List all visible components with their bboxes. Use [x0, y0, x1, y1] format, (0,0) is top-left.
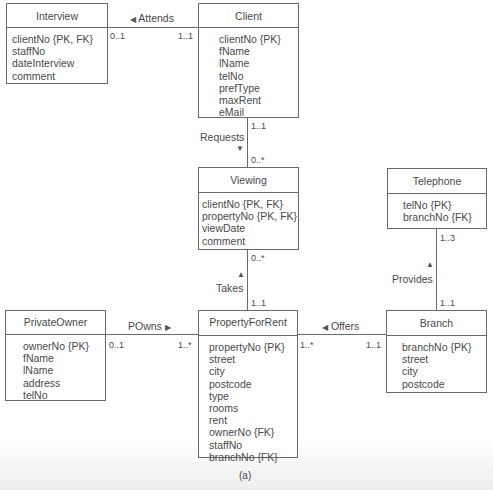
- relationship-label: Takes: [216, 282, 243, 294]
- attribute: clientNo {PK, FK}: [12, 33, 107, 45]
- entity-telephone[interactable]: Telephone telNo {PK} branchNo {FK}: [387, 168, 487, 229]
- takes-connector: [247, 249, 248, 310]
- attribute: branchNo {PK}: [402, 341, 486, 353]
- attribute: postcode: [402, 378, 486, 390]
- attribute: postcode: [209, 378, 297, 390]
- relationship-provides: Provides: [392, 273, 433, 285]
- attribute: eMail: [219, 106, 298, 118]
- attribute: city: [402, 365, 486, 377]
- attribute-list: branchNo {PK} street city postcode: [387, 336, 486, 390]
- multiplicity: 0..1: [109, 340, 124, 350]
- entity-name: Client: [199, 4, 298, 28]
- entity-viewing[interactable]: Viewing clientNo {PK, FK} propertyNo {PK…: [198, 167, 299, 250]
- entity-name: Interview: [7, 4, 107, 28]
- provides-connector: [436, 228, 437, 310]
- arrow-left-icon: ◀: [322, 323, 328, 332]
- attribute: city: [209, 365, 297, 377]
- attribute: telNo {PK}: [403, 199, 486, 211]
- attribute-list: propertyNo {PK} street city postcode typ…: [199, 336, 297, 463]
- multiplicity: 0..1: [110, 31, 125, 41]
- attribute-list: clientNo {PK, FK} staffNo dateInterview …: [7, 28, 107, 82]
- powns-connector: [105, 334, 198, 335]
- entity-propertyforrent[interactable]: PropertyForRent propertyNo {PK} street c…: [198, 310, 298, 458]
- figure-caption: (a): [239, 470, 251, 481]
- entity-name: PrivateOwner: [6, 311, 105, 335]
- attribute: rooms: [209, 402, 297, 414]
- multiplicity: 1..*: [178, 340, 192, 350]
- entity-interview[interactable]: Interview clientNo {PK, FK} staffNo date…: [6, 3, 108, 84]
- offers-connector: [297, 334, 386, 335]
- arrow-down-icon: ▼: [236, 144, 244, 153]
- attribute: staffNo: [209, 439, 297, 451]
- attribute: fName: [219, 45, 298, 57]
- multiplicity: 0..*: [251, 155, 265, 165]
- relationship-offers: ◀ Offers: [322, 320, 359, 332]
- multiplicity: 1..1: [251, 121, 266, 131]
- attribute: comment: [202, 235, 298, 247]
- relationship-takes: Takes: [216, 282, 243, 294]
- relationship-label: Requests: [200, 131, 244, 143]
- attribute: propertyNo {PK}: [209, 341, 297, 353]
- attribute: comment: [12, 70, 107, 82]
- arrow-up-icon: ▲: [237, 270, 245, 279]
- attends-connector: [107, 27, 198, 28]
- attribute: dateInterview: [12, 57, 107, 69]
- attribute: branchNo {FK}: [209, 451, 297, 463]
- attribute: viewDate: [202, 222, 298, 234]
- attribute: prefType: [219, 82, 298, 94]
- relationship-requests: Requests: [200, 131, 244, 143]
- relationship-label: Offers: [331, 320, 359, 332]
- entity-name: PropertyForRent: [199, 311, 297, 336]
- entity-name: Telephone: [388, 169, 486, 194]
- attribute: type: [209, 390, 297, 402]
- multiplicity: 1..1: [440, 298, 455, 308]
- multiplicity: 1..1: [178, 31, 193, 41]
- relationship-label: Provides: [392, 273, 433, 285]
- arrow-up-icon: ▲: [426, 260, 434, 269]
- attribute: ownerNo {FK}: [209, 426, 297, 438]
- attribute: staffNo: [12, 45, 107, 57]
- relationship-label: POwns: [128, 320, 162, 332]
- attribute: branchNo {FK}: [403, 211, 486, 223]
- attribute: maxRent: [219, 94, 298, 106]
- attribute: street: [402, 353, 486, 365]
- relationship-attends: ◀ Attends: [130, 12, 174, 24]
- attribute: clientNo {PK}: [219, 33, 298, 45]
- entity-name: Branch: [387, 311, 486, 336]
- arrow-right-icon: ▶: [165, 323, 171, 332]
- requests-connector: [247, 117, 248, 167]
- attribute: propertyNo {PK, FK}: [202, 210, 298, 222]
- attribute: ownerNo {PK}: [23, 340, 105, 352]
- multiplicity: 1..1: [251, 298, 266, 308]
- entity-name: Viewing: [199, 168, 298, 193]
- multiplicity: 1..1: [366, 340, 381, 350]
- attribute: telNo: [219, 70, 298, 82]
- relationship-powns: POwns ▶: [128, 320, 171, 332]
- multiplicity: 1..3: [440, 233, 455, 243]
- attribute-list: telNo {PK} branchNo {FK}: [388, 194, 486, 223]
- attribute: rent: [209, 414, 297, 426]
- attribute-list: clientNo {PK, FK} propertyNo {PK, FK} vi…: [199, 193, 298, 247]
- attribute-list: clientNo {PK} fName lName telNo prefType…: [199, 28, 298, 118]
- attribute-list: ownerNo {PK} fName lName address telNo: [6, 335, 105, 401]
- relationship-label: Attends: [138, 12, 174, 24]
- multiplicity: 0..*: [251, 253, 265, 263]
- attribute: telNo: [23, 389, 105, 401]
- attribute: lName: [23, 364, 105, 376]
- entity-privateowner[interactable]: PrivateOwner ownerNo {PK} fName lName ad…: [5, 310, 106, 401]
- entity-branch[interactable]: Branch branchNo {PK} street city postcod…: [386, 310, 487, 393]
- attribute: street: [209, 353, 297, 365]
- attribute: clientNo {PK, FK}: [202, 198, 298, 210]
- attribute: fName: [23, 352, 105, 364]
- arrow-left-icon: ◀: [130, 15, 136, 24]
- entity-client[interactable]: Client clientNo {PK} fName lName telNo p…: [198, 3, 299, 118]
- multiplicity: 1..*: [300, 340, 314, 350]
- attribute: address: [23, 377, 105, 389]
- attribute: lName: [219, 57, 298, 69]
